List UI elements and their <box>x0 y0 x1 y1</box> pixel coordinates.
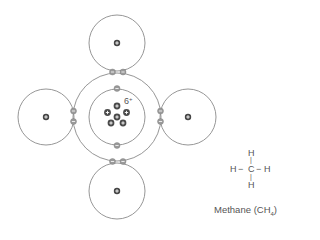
hydrogen-nucleus-right <box>185 114 191 120</box>
caption-formula-open: (CH <box>254 204 271 215</box>
hydrogen-nucleus-top <box>114 40 120 46</box>
carbon-nucleus <box>104 103 130 127</box>
formula-h-right: H <box>264 164 271 174</box>
hydrogen-nucleus-bottom <box>114 188 120 194</box>
formula-bond-right: − <box>256 164 261 174</box>
formula-h-left: H <box>230 164 237 174</box>
formula-bond-left: − <box>238 164 243 174</box>
caption-name: Methane <box>214 204 251 215</box>
carbon-charge-label: 6+ <box>124 96 133 106</box>
caption-formula-close: ) <box>274 204 277 215</box>
molecule-caption: Methane (CH4) <box>214 204 277 217</box>
formula-bond-top: | <box>250 156 252 163</box>
formula-bond-bottom: | <box>250 173 252 180</box>
hydrogen-nucleus-left <box>43 114 49 120</box>
structural-formula: H | H − C − H | H <box>228 148 288 198</box>
formula-h-bottom: H <box>248 180 255 190</box>
